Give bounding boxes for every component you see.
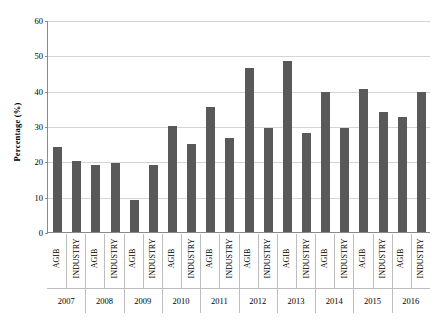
x-axis-group-labels: 2007200820092010201120122013201420152016 xyxy=(47,288,430,312)
x-axis-label-text: INDUSTRY xyxy=(224,238,233,278)
x-axis-divider xyxy=(200,234,201,288)
x-axis-divider xyxy=(296,234,297,288)
bar xyxy=(379,112,388,232)
y-tick-label-20: 20 xyxy=(35,157,44,167)
bar xyxy=(225,138,234,232)
y-tick-label-50: 50 xyxy=(35,51,44,61)
x-axis-label-industry: INDUSTRY xyxy=(296,234,315,288)
year-label-2015: 2015 xyxy=(353,289,391,313)
year-divider xyxy=(162,289,163,313)
x-axis-label-industry: INDUSTRY xyxy=(219,234,238,288)
x-axis-label-agib: AGIB xyxy=(85,234,104,288)
y-tick-label-0: 0 xyxy=(39,228,43,238)
x-axis-label-text: INDUSTRY xyxy=(339,238,348,278)
x-axis-divider xyxy=(219,234,220,288)
x-axis-label-agib: AGIB xyxy=(239,234,258,288)
x-axis-divider xyxy=(334,234,335,288)
x-axis-label-industry: INDUSTRY xyxy=(258,234,277,288)
plot-area: 0102030405060 xyxy=(47,21,430,233)
y-tick-label-40: 40 xyxy=(35,87,44,97)
y-tick-label-60: 60 xyxy=(35,16,44,26)
x-axis-label-text: INDUSTRY xyxy=(378,238,387,278)
year-label-2012: 2012 xyxy=(239,289,277,313)
x-axis-label-agib: AGIB xyxy=(200,234,219,288)
x-axis-label-agib: AGIB xyxy=(162,234,181,288)
x-axis-label-text: INDUSTRY xyxy=(148,238,157,278)
bar xyxy=(398,117,407,232)
x-axis-label-text: INDUSTRY xyxy=(416,238,425,278)
x-axis-label-agib: AGIB xyxy=(124,234,143,288)
x-axis-label-text: AGIB xyxy=(129,249,138,269)
x-axis-divider xyxy=(124,234,125,288)
year-label-2008: 2008 xyxy=(85,289,123,313)
x-axis-label-text: INDUSTRY xyxy=(71,238,80,278)
bar xyxy=(417,92,426,232)
x-axis-divider xyxy=(104,234,105,288)
x-axis-label-industry: INDUSTRY xyxy=(104,234,123,288)
x-axis-divider xyxy=(277,234,278,288)
x-axis-label-agib: AGIB xyxy=(353,234,372,288)
year-divider xyxy=(277,289,278,313)
year-divider xyxy=(315,289,316,313)
x-axis-divider xyxy=(162,234,163,288)
x-axis-label-industry: INDUSTRY xyxy=(143,234,162,288)
bar xyxy=(264,128,273,232)
bar xyxy=(283,61,292,232)
bar xyxy=(340,128,349,232)
bar xyxy=(302,133,311,232)
x-axis-divider xyxy=(392,234,393,288)
x-axis-divider xyxy=(315,234,316,288)
bar xyxy=(245,68,254,232)
x-axis-label-text: INDUSTRY xyxy=(301,238,310,278)
x-axis-label-text: AGIB xyxy=(167,249,176,269)
x-axis-divider xyxy=(373,234,374,288)
bar xyxy=(187,144,196,232)
x-axis-label-industry: INDUSTRY xyxy=(373,234,392,288)
bar xyxy=(130,200,139,232)
bar xyxy=(359,89,368,232)
bar-chart: Percentage (%) 0102030405060 AGIBINDUSTR… xyxy=(0,0,443,326)
year-divider xyxy=(85,289,86,313)
bar xyxy=(321,92,330,232)
year-label-2011: 2011 xyxy=(200,289,238,313)
x-axis-label-text: INDUSTRY xyxy=(110,238,119,278)
year-label-2013: 2013 xyxy=(277,289,315,313)
bars-layer xyxy=(48,21,430,232)
year-label-2010: 2010 xyxy=(162,289,200,313)
bar xyxy=(111,163,120,232)
x-axis-divider xyxy=(353,234,354,288)
x-axis-label-agib: AGIB xyxy=(392,234,411,288)
x-axis-label-text: INDUSTRY xyxy=(263,238,272,278)
year-divider xyxy=(200,289,201,313)
x-axis-divider xyxy=(239,234,240,288)
x-axis-divider xyxy=(85,234,86,288)
y-tick-label-30: 30 xyxy=(35,122,44,132)
x-axis-label-text: AGIB xyxy=(52,249,61,269)
x-axis-divider xyxy=(66,234,67,288)
x-axis-label-text: AGIB xyxy=(282,249,291,269)
x-axis-label-text: AGIB xyxy=(90,249,99,269)
x-axis-label-text: AGIB xyxy=(397,249,406,269)
x-axis-divider xyxy=(143,234,144,288)
year-divider xyxy=(392,289,393,313)
y-axis-title-label: Percentage (%) xyxy=(12,102,22,161)
y-axis-title: Percentage (%) xyxy=(8,62,26,202)
bar xyxy=(168,126,177,232)
year-label-2016: 2016 xyxy=(392,289,430,313)
year-divider xyxy=(239,289,240,313)
bar xyxy=(72,161,81,232)
bar xyxy=(206,107,215,232)
x-axis-label-agib: AGIB xyxy=(47,234,66,288)
y-tick-label-10: 10 xyxy=(35,193,44,203)
bar xyxy=(149,165,158,232)
year-label-2007: 2007 xyxy=(47,289,85,313)
x-axis-label-text: AGIB xyxy=(244,249,253,269)
year-label-2014: 2014 xyxy=(315,289,353,313)
x-axis-divider xyxy=(411,234,412,288)
x-axis-label-text: AGIB xyxy=(358,249,367,269)
x-axis-label-industry: INDUSTRY xyxy=(411,234,430,288)
x-axis-divider xyxy=(181,234,182,288)
x-axis-label-agib: AGIB xyxy=(315,234,334,288)
year-label-2009: 2009 xyxy=(124,289,162,313)
bar xyxy=(91,165,100,232)
